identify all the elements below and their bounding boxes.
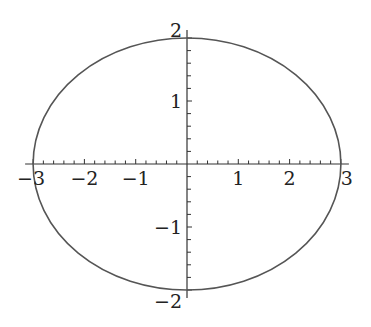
x-tick-label: 1 [232, 167, 244, 189]
y-tick-label: −2 [154, 290, 182, 312]
ellipse-plot: −3−2−1123 −2−112 [0, 0, 371, 327]
x-tick-label: 2 [284, 167, 296, 189]
x-tick-label: 3 [341, 167, 353, 189]
y-tick-label: −1 [154, 216, 182, 238]
x-tick-label: −3 [17, 167, 45, 189]
y-tick-label: 2 [170, 19, 182, 41]
y-tick-labels: −2−112 [154, 19, 182, 312]
y-tick-label: 1 [170, 90, 182, 112]
x-tick-label: −1 [122, 167, 150, 189]
x-tick-labels: −3−2−1123 [17, 167, 353, 189]
x-tick-label: −2 [70, 167, 98, 189]
